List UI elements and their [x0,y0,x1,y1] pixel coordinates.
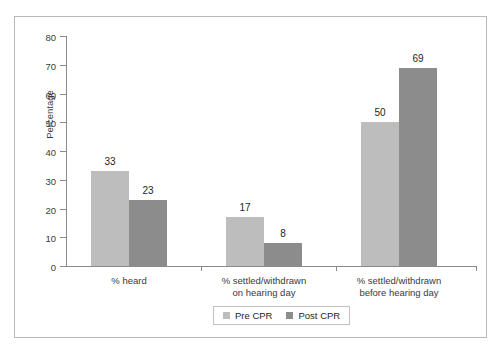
x-axis-category-label-heard: % heard [54,275,204,287]
y-axis-tick-0: 0 [60,266,66,267]
x-axis-separator-2 [336,266,337,271]
bar-value-label: 8 [280,228,286,240]
bar-group-heard: 33 23 [91,36,167,266]
plot-area: 33 23 17 8 50 69 [66,36,476,266]
legend-entry-post-cpr[interactable]: Post CPR [286,310,340,321]
chart-legend: Pre CPR Post CPR [213,306,350,325]
category-label-line: % settled/withdrawn [189,275,339,287]
x-axis-separator-1 [201,266,202,271]
y-axis-tick-label-60: 60 [45,90,56,102]
y-axis-tick-label-30: 30 [45,176,56,188]
legend-label-pre-cpr: Pre CPR [235,310,272,321]
category-label-line: % heard [54,275,204,287]
legend-swatch-icon-post-cpr [286,312,293,319]
category-label-line: before hearing day [324,287,474,299]
x-axis-category-label-settled-on-hearing-day: % settled/withdrawn on hearing day [189,275,339,299]
bar-group-settled-on-hearing-day: 17 8 [226,36,302,266]
y-axis-tick-label-40: 40 [45,147,56,159]
bar-post-cpr-heard[interactable]: 23 [129,200,167,266]
y-axis-tick-label-50: 50 [45,118,56,130]
x-axis-category-label-settled-before-hearing-day: % settled/withdrawn before hearing day [324,275,474,299]
bar-value-label: 17 [239,202,250,214]
x-axis-end-tick [476,266,477,271]
chart-figure-frame: Percentage 80 70 60 50 40 30 20 10 0 [14,16,487,338]
y-axis-tick-label-80: 80 [45,32,56,44]
category-label-line: % settled/withdrawn [324,275,474,287]
bar-pre-cpr-settled-on-hearing-day[interactable]: 17 [226,217,264,266]
bar-post-cpr-settled-before-hearing-day[interactable]: 69 [399,68,437,266]
legend-swatch-icon-pre-cpr [223,312,230,319]
category-label-line: on hearing day [189,287,339,299]
y-axis-tick-label-0: 0 [51,262,56,274]
y-axis-tick-label-20: 20 [45,205,56,217]
bar-post-cpr-settled-on-hearing-day[interactable]: 8 [264,243,302,266]
x-axis-line [66,266,477,267]
bar-pre-cpr-heard[interactable]: 33 [91,171,129,266]
bar-value-label: 23 [142,185,153,197]
bar-pre-cpr-settled-before-hearing-day[interactable]: 50 [361,122,399,266]
legend-entry-pre-cpr[interactable]: Pre CPR [223,310,272,321]
bar-value-label: 33 [104,156,115,168]
legend-label-post-cpr: Post CPR [298,310,340,321]
bar-value-label: 69 [412,53,423,65]
y-axis-title: Percentage [44,70,55,160]
bar-value-label: 50 [374,107,385,119]
bar-group-settled-before-hearing-day: 50 69 [361,36,437,266]
y-axis-tick-label-70: 70 [45,61,56,73]
y-axis-tick-label-10: 10 [45,233,56,245]
